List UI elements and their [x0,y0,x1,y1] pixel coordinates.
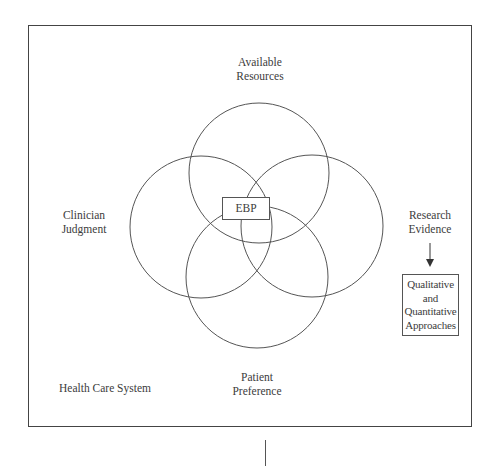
circle-available-resources [189,103,329,243]
label-line: Available [220,55,300,69]
label-line: Preference [217,384,297,398]
diagram-canvas: Available Resources Clinician Judgment R… [0,0,499,466]
arrow-down-icon [426,243,434,267]
research-approaches-box: Qualitative and Quantitative Approaches [402,274,459,336]
label-health-care-system: Health Care System [50,381,160,395]
label-clinician-judgment: Clinician Judgment [44,208,124,236]
circle-patient-preference [186,206,328,348]
label-line: Clinician [44,208,124,222]
approaches-line: Qualitative [403,278,458,292]
label-line: Research [390,208,470,222]
circle-clinician-judgment [130,156,272,298]
label-patient-preference: Patient Preference [217,370,297,398]
label-available-resources: Available Resources [220,55,300,83]
approaches-line: Quantitative [403,305,458,319]
approaches-line: Approaches [403,319,458,333]
label-line: Evidence [390,222,470,236]
label-line: Resources [220,69,300,83]
label-research-evidence: Research Evidence [390,208,470,236]
label-line: Patient [217,370,297,384]
approaches-line: and [403,292,458,306]
circle-research-evidence [241,155,383,297]
ebp-box: EBP [222,197,270,220]
label-line: Judgment [44,222,124,236]
